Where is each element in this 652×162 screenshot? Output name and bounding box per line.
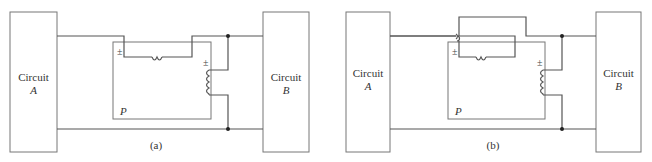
junction-dot xyxy=(226,127,230,131)
circuit-b-letter: B xyxy=(615,80,622,92)
voltage-branch-wire xyxy=(543,36,562,129)
voltage-coil-polarity: ± xyxy=(537,57,543,68)
circuit-a-letter: A xyxy=(364,80,372,92)
circuit-a-letter: A xyxy=(29,84,37,96)
wattmeter-box xyxy=(448,42,545,119)
wattmeter-box xyxy=(113,42,211,119)
junction-dot xyxy=(560,34,564,38)
current-coil-polarity: ± xyxy=(117,46,123,57)
voltage-coil-polarity: ± xyxy=(203,57,209,68)
circuit-a-label: Circuit xyxy=(353,67,384,79)
circuit-b-label: Circuit xyxy=(271,71,302,83)
junction-dot xyxy=(226,34,230,38)
circuit-a-label: Circuit xyxy=(18,71,49,83)
panel-b-caption: (b) xyxy=(487,139,500,152)
junction-dot xyxy=(560,127,564,131)
panel-a-caption: (a) xyxy=(150,139,163,152)
panel-b: Circuit A Circuit B P ± ± (b) xyxy=(346,12,641,152)
wattmeter-connection-diagram: Circuit A Circuit B P ± ± (a) Circuit A … xyxy=(0,0,652,162)
jumper-wire xyxy=(459,17,596,36)
wattmeter-label: P xyxy=(119,105,127,117)
wattmeter-label: P xyxy=(454,105,462,117)
circuit-b-label: Circuit xyxy=(603,67,634,79)
current-coil-polarity: ± xyxy=(452,46,458,57)
panel-a: Circuit A Circuit B P ± ± (a) xyxy=(10,12,309,152)
voltage-branch-wire xyxy=(209,36,228,129)
top-wire-left xyxy=(390,36,459,41)
circuit-b-letter: B xyxy=(283,84,290,96)
wire-crossover-icon xyxy=(456,34,457,39)
